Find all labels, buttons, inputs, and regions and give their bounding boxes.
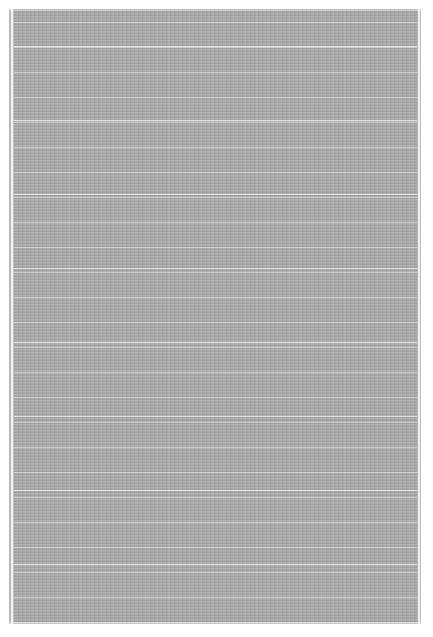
rug-top-edge: [9, 9, 421, 11]
gray-grid-rug: [9, 9, 421, 624]
rug-left-binding: [9, 9, 14, 624]
rug-vertical-grid-lines: [9, 9, 421, 624]
product-image-canvas: [0, 0, 433, 637]
rug-right-binding: [417, 9, 421, 624]
rug-bottom-edge: [9, 622, 421, 624]
